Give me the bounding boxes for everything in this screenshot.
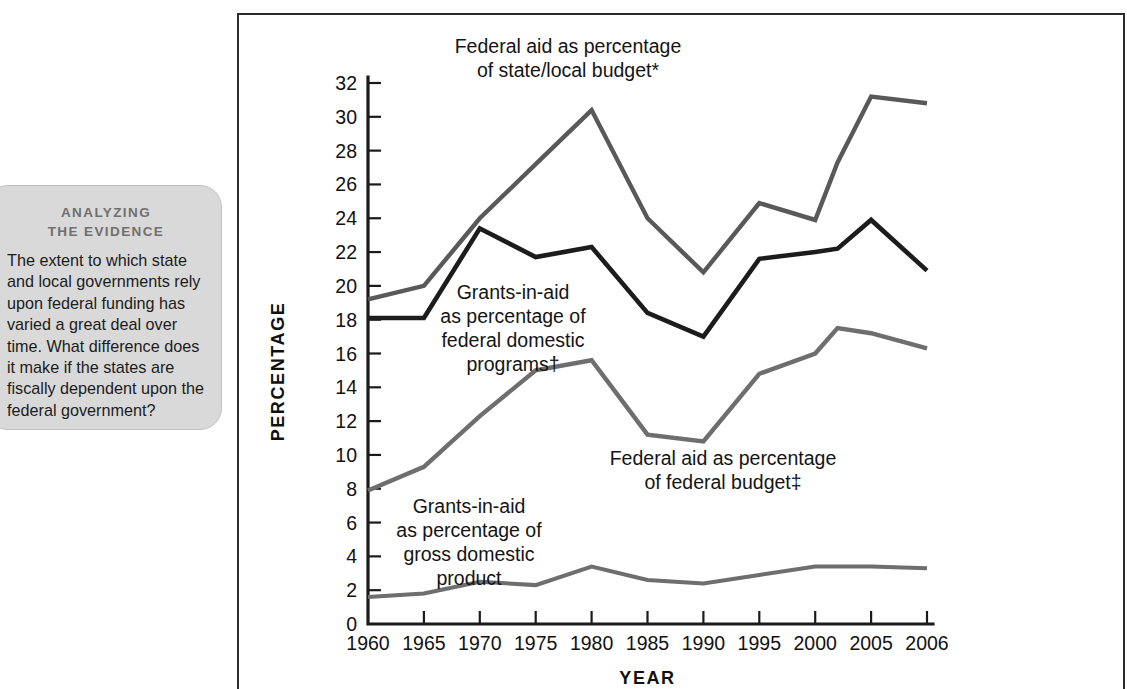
annotation-line: as percentage of xyxy=(396,519,542,541)
series-annotation-1: Grants-in-aidas percentage offederal dom… xyxy=(440,281,586,375)
x-tick-label: 1960 xyxy=(346,632,390,654)
y-tick-label: 4 xyxy=(346,545,357,567)
line-chart: 02468101214161820222426283032 1960196519… xyxy=(237,13,1125,689)
series-annotation-0: Federal aid as percentageof state/local … xyxy=(455,35,682,81)
analyzing-the-evidence-callout: ANALYZING THE EVIDENCE The extent to whi… xyxy=(0,185,222,430)
y-axis-title: PERCENTAGE xyxy=(268,302,288,442)
x-tick-label: 2006 xyxy=(905,632,948,654)
y-tick-label: 2 xyxy=(346,579,357,601)
annotation-line: federal domestic xyxy=(441,329,584,351)
x-tick-label: 2000 xyxy=(794,632,838,654)
x-tick-label: 2005 xyxy=(849,632,893,654)
x-tick-label: 1990 xyxy=(682,632,726,654)
x-tick-label: 1975 xyxy=(514,632,558,654)
annotation-line: of state/local budget* xyxy=(477,59,660,81)
x-tick-label: 1995 xyxy=(738,632,782,654)
x-axis-ticks: 1960196519701975198019851990199520002005… xyxy=(346,611,948,654)
y-tick-label: 32 xyxy=(335,72,357,94)
annotation-line: Grants-in-aid xyxy=(413,495,526,517)
annotation-line: Federal aid as percentage xyxy=(610,447,837,469)
x-axis-title: YEAR xyxy=(619,668,675,688)
y-tick-label: 18 xyxy=(335,309,357,331)
x-tick-label: 1985 xyxy=(626,632,670,654)
y-tick-label: 24 xyxy=(335,207,357,229)
y-tick-label: 22 xyxy=(335,241,357,263)
callout-kicker: ANALYZING THE EVIDENCE xyxy=(7,203,205,241)
y-tick-label: 14 xyxy=(335,376,357,398)
callout-body-text: The extent to which state and local gove… xyxy=(7,250,205,421)
y-tick-label: 30 xyxy=(335,106,357,128)
x-tick-label: 1970 xyxy=(458,632,502,654)
y-tick-label: 8 xyxy=(346,478,357,500)
y-tick-label: 6 xyxy=(346,512,357,534)
x-tick-label: 1965 xyxy=(402,632,446,654)
y-tick-label: 28 xyxy=(335,140,357,162)
series-annotation-2: Federal aid as percentageof federal budg… xyxy=(610,447,837,493)
annotation-line: gross domestic xyxy=(403,543,534,565)
y-tick-label: 16 xyxy=(335,343,357,365)
series-annotation-3: Grants-in-aidas percentage ofgross domes… xyxy=(396,495,542,589)
annotation-line: as percentage of xyxy=(440,305,586,327)
y-tick-label: 26 xyxy=(335,173,357,195)
y-tick-label: 20 xyxy=(335,275,357,297)
annotation-line: of federal budget‡ xyxy=(644,471,801,493)
annotation-line: Federal aid as percentage xyxy=(455,35,682,57)
annotation-line: Grants-in-aid xyxy=(457,281,570,303)
series-annotations: Federal aid as percentageof state/local … xyxy=(396,35,836,589)
callout-kicker-line1: ANALYZING xyxy=(61,205,151,220)
annotation-line: programs† xyxy=(466,353,559,375)
y-tick-label: 12 xyxy=(335,410,357,432)
y-axis-ticks: 02468101214161820222426283032 xyxy=(335,72,381,635)
annotation-line: product xyxy=(436,567,502,589)
y-tick-label: 10 xyxy=(335,444,357,466)
chart-container: 02468101214161820222426283032 1960196519… xyxy=(237,13,1125,689)
x-tick-label: 1980 xyxy=(570,632,614,654)
callout-kicker-line2: THE EVIDENCE xyxy=(7,222,205,241)
